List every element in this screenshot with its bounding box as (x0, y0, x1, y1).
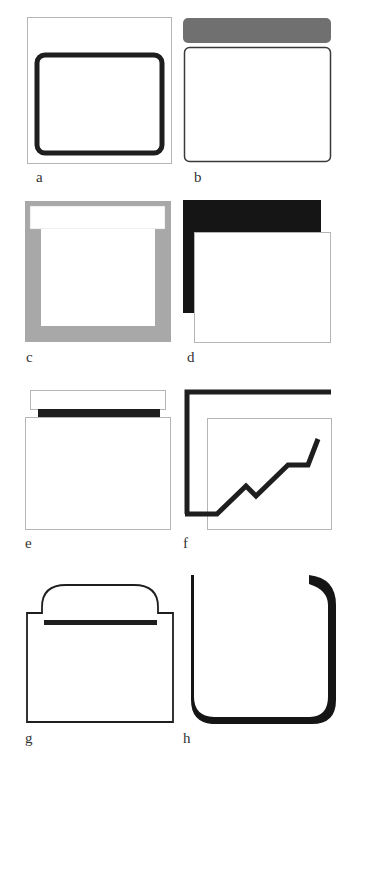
panel-b: b (183, 18, 331, 185)
panel-f: f (183, 392, 332, 551)
panel-e-label: e (25, 535, 32, 551)
panel-a-label: a (36, 169, 43, 185)
panel-a-window (37, 55, 162, 153)
panel-d-window (195, 233, 331, 343)
panel-h-label: h (183, 730, 191, 746)
panel-e: e (25, 391, 171, 552)
panel-e-header (31, 391, 166, 410)
panel-b-title-bar (183, 18, 331, 43)
figure-canvas: a b c d e f g h (0, 0, 370, 876)
panel-c-title-strip (30, 206, 165, 229)
panel-b-label: b (194, 169, 202, 185)
panel-c-window (41, 229, 155, 326)
panel-g-bar (44, 620, 157, 625)
panel-d-label: d (187, 349, 195, 365)
panel-c: c (25, 201, 171, 365)
panel-d: d (183, 200, 331, 365)
panel-f-label: f (183, 535, 188, 551)
panel-a: a (28, 18, 172, 186)
panel-f-graph-line (185, 439, 318, 514)
panel-g: g (25, 585, 173, 746)
panel-e-window (26, 418, 171, 530)
panel-g-folder-outline (27, 585, 173, 722)
panel-g-label: g (25, 730, 33, 746)
panel-e-underline-bar (38, 409, 160, 417)
panel-b-window (185, 48, 331, 162)
panel-f-window (208, 419, 332, 530)
panel-h-bracket-shape (191, 575, 336, 724)
panel-c-label: c (26, 349, 33, 365)
panel-h: h (183, 575, 336, 746)
